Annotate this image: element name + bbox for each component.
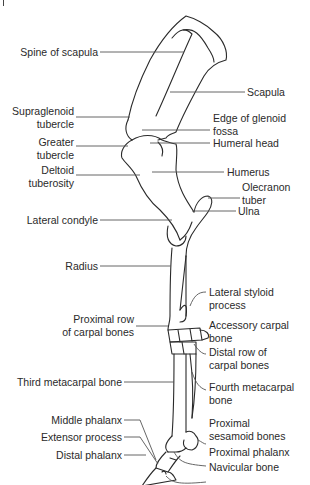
- label-deltoid-tuberosity: Deltoid tuberosity: [28, 164, 74, 189]
- label-third-metacarpal-bone: Third metacarpal bone: [17, 376, 122, 389]
- radius-shape: [168, 248, 187, 330]
- label-humerus: Humerus: [227, 166, 270, 179]
- label-spine-of-scapula: Spine of scapula: [20, 46, 98, 59]
- label-lateral-styloid-process: Lateral styloid process: [209, 286, 274, 311]
- label-supraglenoid-tubercle: Supraglenoid tubercle: [12, 105, 74, 130]
- label-proximal-phalanx: Proximal phalanx: [209, 446, 290, 459]
- label-distal-phalanx: Distal phalanx: [56, 449, 122, 462]
- label-scapula: Scapula: [247, 86, 285, 99]
- label-edge-of-glenoid-fossa: Edge of glenoid fossa: [213, 112, 286, 137]
- label-distal-row-carpal-bones: Distal row of carpal bones: [209, 346, 269, 371]
- label-fourth-metacarpal-bone: Fourth metacarpal bone: [209, 381, 294, 406]
- scapula-shape: [126, 16, 227, 140]
- limb-skeleton-drawing: [0, 0, 310, 485]
- label-proximal-row-carpal-bones: Proximal row of carpal bones: [62, 313, 134, 338]
- label-olecranon-tuber: Olecranon tuber: [242, 181, 290, 206]
- label-accessory-carpal-bone: Accessory carpal bone: [209, 319, 289, 344]
- humerus-shape: [121, 136, 194, 247]
- label-lateral-condyle: Lateral condyle: [27, 214, 98, 227]
- label-extensor-process: Extensor process: [41, 431, 122, 444]
- label-proximal-sesamoid-bones: Proximal sesamoid bones: [209, 417, 285, 442]
- label-radius: Radius: [65, 260, 98, 273]
- label-greater-tubercle: Greater tubercle: [37, 136, 74, 161]
- label-middle-phalanx: Middle phalanx: [51, 414, 122, 427]
- label-ulna: Ulna: [238, 205, 260, 218]
- label-navicular-bone: Navicular bone: [209, 461, 279, 474]
- ulna-shape: [180, 196, 212, 310]
- digit-shape: [142, 431, 198, 485]
- carpal-bones-shape: [168, 328, 209, 354]
- label-humeral-head: Humeral head: [213, 137, 279, 150]
- metacarpal-shape: [172, 354, 196, 436]
